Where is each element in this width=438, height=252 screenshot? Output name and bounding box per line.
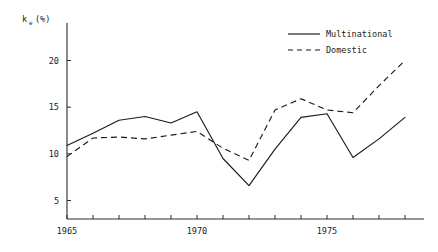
y-tick-label: 10	[49, 149, 59, 159]
legend-label-domestic: Domestic	[326, 45, 367, 55]
y-tick-label: 5	[54, 196, 59, 206]
chart-container: k e (%) 5101520 196519701975 Multination…	[0, 0, 438, 252]
y-axis-title-subscript: e	[29, 19, 33, 26]
line-chart: k e (%) 5101520 196519701975 Multination…	[0, 0, 438, 252]
y-tick-label: 15	[49, 102, 59, 112]
y-axis-ticks: 5101520	[49, 56, 71, 206]
y-axis-title-base: k	[22, 14, 27, 24]
y-axis-title: k e (%)	[22, 14, 50, 26]
x-axis-ticks: 196519701975	[57, 215, 405, 236]
series-line-domestic	[67, 61, 405, 161]
x-tick-label: 1965	[57, 226, 77, 236]
y-axis-title-unit: (%)	[35, 14, 50, 24]
x-tick-label: 1975	[317, 226, 337, 236]
legend: Multinational Domestic	[288, 29, 393, 55]
y-tick-label: 20	[49, 56, 59, 66]
series-line-multinational	[67, 112, 405, 186]
legend-label-multinational: Multinational	[326, 29, 393, 39]
x-tick-label: 1970	[187, 226, 207, 236]
